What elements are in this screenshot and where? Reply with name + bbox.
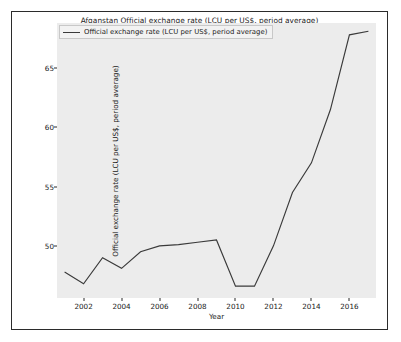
y-tick-label-55: 55 bbox=[45, 182, 54, 191]
chart-legend: Official exchange rate (LCU per US$, per… bbox=[59, 25, 273, 39]
y-tick-label-60: 60 bbox=[45, 123, 54, 132]
x-tick-mark-2006 bbox=[159, 298, 160, 301]
x-tick-label-2014: 2014 bbox=[302, 302, 320, 311]
x-tick-mark-2002 bbox=[83, 298, 84, 301]
x-tick-mark-2004 bbox=[121, 298, 122, 301]
y-tick-mark-60 bbox=[54, 127, 57, 128]
x-tick-label-2008: 2008 bbox=[188, 302, 206, 311]
x-axis-label: Year bbox=[57, 312, 376, 321]
plot-area: Official exchange rate (LCU per US$, per… bbox=[57, 23, 376, 298]
legend-label: Official exchange rate (LCU per US$, per… bbox=[84, 28, 267, 36]
x-tick-mark-2016 bbox=[349, 298, 350, 301]
y-tick-mark-50 bbox=[54, 245, 57, 246]
line-series-svg bbox=[57, 23, 376, 298]
x-tick-label-2006: 2006 bbox=[150, 302, 168, 311]
y-axis-label: Official exchange rate (LCU per US$, per… bbox=[111, 65, 120, 256]
x-tick-mark-2012 bbox=[273, 298, 274, 301]
x-tick-label-2002: 2002 bbox=[74, 302, 92, 311]
y-tick-label-65: 65 bbox=[45, 64, 54, 73]
x-tick-mark-2008 bbox=[197, 298, 198, 301]
x-tick-label-2016: 2016 bbox=[340, 302, 358, 311]
y-tick-label-50: 50 bbox=[45, 241, 54, 250]
figure-panel: Afganstan Official exchange rate (LCU pe… bbox=[11, 11, 388, 330]
x-tick-label-2010: 2010 bbox=[226, 302, 244, 311]
legend-line-swatch bbox=[63, 32, 80, 33]
x-tick-mark-2010 bbox=[235, 298, 236, 301]
x-tick-mark-2014 bbox=[311, 298, 312, 301]
x-tick-label-2012: 2012 bbox=[264, 302, 282, 311]
y-tick-mark-55 bbox=[54, 186, 57, 187]
y-tick-mark-65 bbox=[54, 68, 57, 69]
x-tick-label-2004: 2004 bbox=[112, 302, 130, 311]
